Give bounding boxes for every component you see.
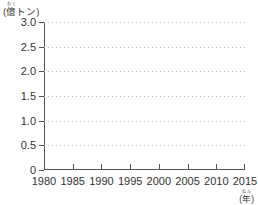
y-tick-mark [39,145,44,146]
chart-container: (億おくトン) 3.02.52.01.51.00.50 198019851990… [0,0,258,205]
x-tick-label: 2015 [225,176,258,187]
x-axis-unit-label: (年ねん) [239,189,254,204]
y-tick-label: 0.5 [0,140,36,151]
y-unit-furigana: おく [6,1,16,6]
x-axis-line [44,169,245,170]
gridline [44,47,245,48]
gridline [44,96,245,97]
y-tick-mark [39,22,44,23]
x-unit-suffix: ) [251,194,254,204]
y-tick-label: 0 [0,165,36,176]
y-tick-mark [39,47,44,48]
y-tick-label: 2.5 [0,41,36,52]
x-unit-furigana: ねん [242,189,251,194]
bottom-caption-strip [6,200,196,205]
y-tick-label: 1.0 [0,115,36,126]
x-unit-base: 年 [242,194,251,204]
y-unit-base: 億 [6,6,16,17]
x-axis-end-tick [244,164,245,170]
gridline [44,121,245,122]
y-tick-mark [39,96,44,97]
y-tick-label: 1.5 [0,91,36,102]
y-tick-mark [39,121,44,122]
x-unit-kanji: 年ねん [242,194,251,204]
gridline [44,145,245,146]
y-tick-mark [39,170,44,171]
plot-area [44,22,245,170]
y-unit-kanji: 億おく [6,6,16,17]
y-tick-label: 3.0 [0,17,36,28]
gridline [44,22,245,23]
y-tick-label: 2.0 [0,66,36,77]
y-tick-mark [39,71,44,72]
y-axis-unit-label: (億おくトン) [3,1,39,17]
gridline [44,71,245,72]
